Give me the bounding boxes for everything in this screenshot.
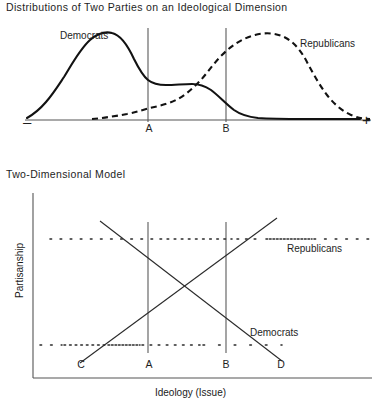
ascending-preference-line xyxy=(80,218,277,363)
bottom-two-dimensional-chart xyxy=(0,188,381,398)
bottom-panel-title: Two-Dimensional Model xyxy=(6,168,125,180)
bottom-chart-tick-b: B xyxy=(219,358,233,370)
top-chart-republicans-label: Republicans xyxy=(300,38,355,49)
top-chart-positive-sign: + xyxy=(362,112,371,127)
top-chart-negative-sign: – xyxy=(23,114,31,129)
bottom-chart-republicans-label: Republicans xyxy=(287,243,342,254)
bottom-chart-democrats-label: Democrats xyxy=(250,327,298,338)
top-chart-democrats-label: Democrats xyxy=(60,30,108,41)
top-panel-title: Distributions of Two Parties on an Ideol… xyxy=(6,1,287,13)
top-distribution-chart xyxy=(0,14,381,154)
bottom-chart-y-axis-label: Partisanship xyxy=(14,231,25,311)
top-chart-tick-b: B xyxy=(219,122,233,134)
bottom-chart-tick-a: A xyxy=(142,358,156,370)
bottom-chart-x-axis-label: Ideology (Issue) xyxy=(0,387,381,398)
bottom-chart-tick-d: D xyxy=(274,358,288,370)
descending-preference-line xyxy=(100,221,282,361)
top-chart-tick-a: A xyxy=(142,122,156,134)
figure-root: Distributions of Two Parties on an Ideol… xyxy=(0,0,381,407)
bottom-chart-tick-c: C xyxy=(74,358,88,370)
